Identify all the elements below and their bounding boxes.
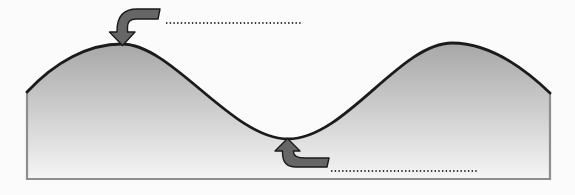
diagram-canvas: [0, 0, 575, 195]
wave-diagram: [0, 0, 575, 195]
curved-arrow-down-icon: [110, 9, 161, 46]
